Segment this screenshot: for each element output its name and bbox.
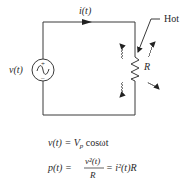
heat-wave-upper-right-icon [148, 42, 155, 57]
heat-wave-lower-left-icon [120, 82, 123, 97]
voltage-equation-lhs: v(t) = V [48, 137, 82, 149]
heat-wave-lower-right-icon [148, 82, 159, 89]
power-equation-rhs: = i²(t)R [106, 162, 137, 174]
power-equation-denominator: R [89, 170, 96, 180]
source-plus: + [41, 60, 45, 68]
resistor-label: R [143, 61, 150, 72]
circuit-diagram: i(t) + – v(t) R Hot v(t) = Vp cosωt p(t)… [0, 0, 190, 188]
voltage-equation: v(t) = Vp cosωt [48, 137, 109, 150]
power-equation-numerator: v²(t) [85, 156, 100, 166]
hot-pointer-icon [138, 19, 160, 52]
power-equation: p(t) = v²(t) R = i²(t)R [47, 156, 137, 180]
heat-wave-upper-left-icon [120, 44, 123, 59]
source-minus: – [40, 74, 45, 82]
power-equation-lhs: p(t) = [47, 162, 72, 174]
resistor-icon [131, 57, 139, 81]
heat-radiation-icons [120, 42, 159, 97]
current-label: i(t) [79, 5, 92, 17]
hot-label: Hot [164, 13, 179, 24]
source-label: v(t) [9, 64, 24, 76]
voltage-equation-rhs: cosωt [83, 137, 108, 148]
svg-text:v(t) = Vp cosωt: v(t) = Vp cosωt [48, 137, 109, 150]
circuit-wires [43, 22, 135, 115]
current-arrow-icon [82, 19, 92, 25]
